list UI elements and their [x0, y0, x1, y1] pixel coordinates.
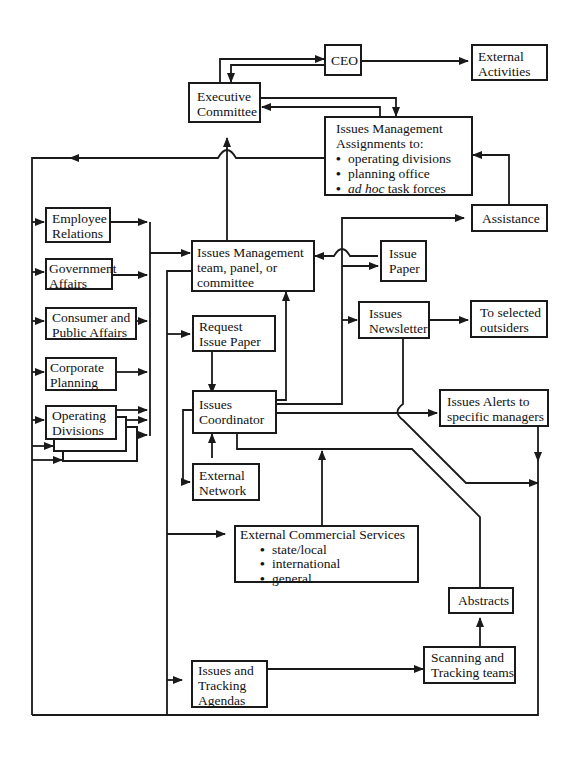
service-item: international: [260, 557, 413, 572]
node-label: outsiders: [480, 320, 541, 335]
node-label: Abstracts: [458, 593, 507, 608]
node-external-commercial-services: External Commercial Services state/local…: [234, 525, 419, 583]
node-label: Consumer and: [52, 310, 130, 325]
italic-qualifier: ad hoc: [348, 181, 384, 196]
node-label: Activities: [478, 64, 541, 79]
node-assistance: Assistance: [471, 204, 548, 232]
node-issues-alerts: Issues Alerts to specific managers: [439, 389, 549, 427]
node-corporate-planning: Corporate Planning: [45, 357, 117, 391]
node-scanning-tracking-teams: Scanning and Tracking teams: [423, 646, 516, 684]
node-label: External Commercial Services: [240, 528, 413, 543]
node-label: Committee: [197, 104, 254, 119]
node-im-assignments: Issues Management Assignments to: operat…: [324, 116, 473, 196]
node-label: External: [199, 468, 253, 483]
node-label: External: [478, 49, 541, 64]
node-label: Tracking teams: [431, 665, 509, 680]
node-ceo: CEO: [324, 44, 362, 76]
node-label: Assignments to:: [336, 136, 466, 151]
service-list: state/local international general: [240, 543, 413, 587]
node-external-activities: External Activities: [471, 44, 548, 81]
node-label: Scanning and: [431, 650, 509, 665]
node-employee-relations: Employee Relations: [45, 207, 111, 243]
node-label: Issues Management: [197, 245, 308, 260]
assignment-item: operating divisions: [336, 151, 466, 166]
node-label: specific managers: [447, 409, 542, 424]
node-label: Issues: [199, 397, 270, 412]
node-issues-tracking-agendas: Issues and Tracking Agendas: [191, 660, 268, 708]
node-label: Agendas: [198, 693, 261, 708]
node-label: Planning: [50, 375, 112, 390]
node-consumer-public-affairs: Consumer and Public Affairs: [45, 307, 137, 340]
issues-management-flowchart: CEO External Activities Executive Commit…: [0, 0, 577, 758]
node-label: Issues Alerts to: [447, 394, 542, 409]
node-external-network: External Network: [192, 463, 260, 501]
node-label: Paper: [389, 261, 420, 276]
node-label: Executive: [197, 89, 254, 104]
service-item: state/local: [260, 543, 413, 558]
node-label: Public Affairs: [52, 325, 130, 340]
node-label: Request: [199, 319, 269, 334]
node-label: Employee: [52, 211, 104, 226]
node-label: Network: [199, 483, 253, 498]
node-label: Issues Management: [336, 121, 466, 136]
node-label: Newsletter: [369, 321, 423, 336]
node-label: Coordinator: [199, 412, 270, 427]
node-label: Government: [49, 261, 109, 276]
assignment-item: planning office: [336, 166, 466, 181]
node-label: To selected: [480, 305, 541, 320]
assignment-item: ad hoc task forces: [336, 181, 466, 196]
node-executive-committee: Executive Committee: [188, 82, 261, 123]
node-government-affairs: Government Affairs: [45, 258, 113, 290]
node-label: Affairs: [49, 276, 109, 291]
node-label: Issue: [389, 246, 420, 261]
node-operating-divisions: Operating Divisions: [45, 405, 117, 440]
node-label: Divisions: [52, 423, 110, 438]
node-label: Issues: [369, 306, 423, 321]
service-item: general: [260, 572, 413, 587]
node-issue-paper: Issue Paper: [380, 240, 427, 282]
node-label: team, panel, or: [197, 260, 308, 275]
node-label: Tracking: [198, 678, 261, 693]
node-abstracts: Abstracts: [448, 587, 514, 614]
assignment-list: operating divisions planning office ad h…: [336, 151, 466, 196]
node-issues-coordinator: Issues Coordinator: [192, 390, 277, 434]
node-label: Corporate: [50, 360, 112, 375]
node-label: Relations: [52, 226, 104, 241]
node-label: CEO: [331, 53, 355, 68]
node-label: Issue Paper: [199, 334, 269, 349]
node-im-team: Issues Management team, panel, or commit…: [191, 240, 315, 292]
node-label: Assistance: [482, 211, 541, 226]
node-selected-outsiders: To selected outsiders: [470, 300, 548, 338]
node-label: Issues and: [198, 663, 261, 678]
node-label: committee: [197, 275, 308, 290]
node-request-issue-paper: Request Issue Paper: [192, 315, 276, 352]
node-label: Operating: [52, 408, 110, 423]
node-issues-newsletter: Issues Newsletter: [358, 301, 430, 339]
